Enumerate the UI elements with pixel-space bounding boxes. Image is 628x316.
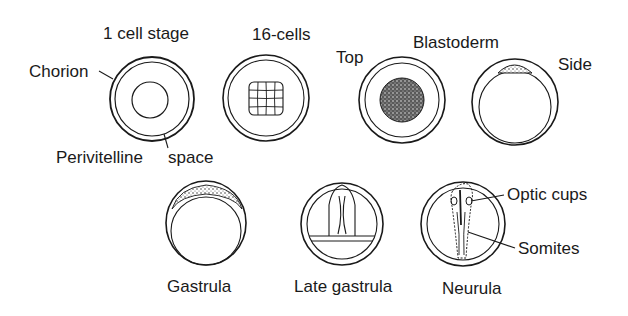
- blastoderm-top-view: [359, 57, 445, 143]
- label-perivitelline: Perivitelline: [56, 149, 143, 166]
- blastoderm-side-view: [472, 59, 558, 145]
- label-somites: Somites: [518, 240, 579, 257]
- label-late-gastrula: Late gastrula: [294, 278, 392, 295]
- label-side-view: Side: [558, 56, 592, 73]
- label-space: space: [168, 149, 213, 166]
- label-top-view: Top: [336, 49, 363, 66]
- label-optic-cups: Optic cups: [507, 186, 587, 203]
- label-gastrula: Gastrula: [167, 278, 231, 295]
- one-cell-embryo: [99, 57, 194, 148]
- embryo-stages-diagram: 1 cell stage 16-cells Blastoderm Top Sid…: [0, 0, 628, 316]
- late-gastrula-embryo: [301, 183, 383, 265]
- label-sixteen-cells: 16-cells: [252, 26, 311, 43]
- gastrula-embryo: [166, 181, 246, 265]
- label-one-cell-stage: 1 cell stage: [103, 25, 189, 42]
- label-blastoderm: Blastoderm: [413, 34, 499, 51]
- neurula-embryo: [421, 182, 515, 266]
- label-neurula: Neurula: [442, 280, 502, 297]
- sixteen-cell-embryo: [223, 55, 309, 141]
- label-chorion: Chorion: [29, 63, 89, 80]
